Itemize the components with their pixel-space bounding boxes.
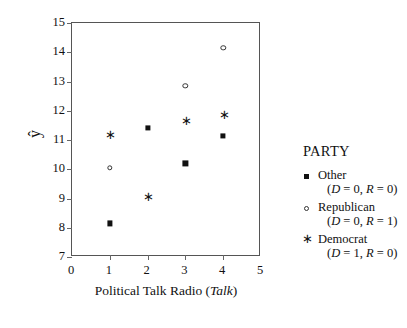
legend-items: Other(D = 0, R = 0)Republican(D = 0, R =… [303,169,407,260]
marker-filled-square [183,161,188,166]
y-tick [67,82,72,83]
y-tick-label: 13 [41,75,65,87]
legend-item-republican[interactable]: Republican(D = 0, R = 1) [303,201,407,228]
marker-filled-square [145,126,150,131]
legend-item-label: Democrat [318,233,407,246]
y-tick-label: 15 [41,16,65,28]
x-tick [148,255,149,260]
x-tick-label: 3 [172,264,196,276]
x-tick [223,255,224,260]
y-tick [67,140,72,141]
x-axis-label-tail: ) [233,283,238,298]
y-tick [67,169,72,170]
legend-item-label: Republican [318,201,407,214]
legend-item-democrat[interactable]: ∗Democrat(D = 1, R = 0) [303,233,407,260]
y-tick-label: 10 [41,162,65,174]
legend: PARTY Other(D = 0, R = 0)Republican(D = … [303,143,407,265]
x-axis-label-text: Political Talk Radio ( [95,283,210,298]
y-tick [67,228,72,229]
marker-open-circle [304,206,309,211]
x-axis-label-italic: Talk [210,283,233,298]
y-tick-label: 11 [41,133,65,145]
legend-item-other[interactable]: Other(D = 0, R = 0) [303,169,407,196]
marker-asterisk: ∗ [181,115,190,124]
x-axis-label: Political Talk Radio (Talk) [55,283,277,299]
legend-item-label: Other [318,169,407,182]
y-tick-label: 12 [41,104,65,116]
marker-filled-square [304,174,309,179]
y-tick-label: 9 [41,192,65,204]
plot-area: ∗∗∗∗ [71,22,260,256]
legend-item-condition: (D = 0, R = 0) [318,182,407,196]
x-tick-label: 0 [59,264,83,276]
y-tick-label: 8 [41,221,65,233]
legend-item-condition: (D = 0, R = 1) [318,214,407,228]
legend-title: PARTY [303,143,407,160]
x-tick-label: 1 [97,264,121,276]
y-tick [67,111,72,112]
marker-asterisk: ∗ [219,109,228,118]
x-tick-label: 5 [248,264,272,276]
marker-filled-square [221,133,226,138]
marker-asterisk: ∗ [105,130,114,139]
y-tick-label: 7 [41,250,65,262]
y-tick [67,199,72,200]
y-tick [67,52,72,53]
y-tick [67,23,72,24]
y-tick-label: 14 [41,45,65,57]
x-tick [185,255,186,260]
x-tick [110,255,111,260]
marker-open-circle [220,45,225,50]
marker-open-circle [107,165,112,170]
marker-filled-square [107,221,112,226]
y-tick [67,257,72,258]
x-tick-label: 2 [135,264,159,276]
marker-asterisk: ∗ [143,191,152,200]
x-tick-label: 4 [210,264,234,276]
chart-root: ∗∗∗∗ ŷ Political Talk Radio (Talk) PARTY… [0,0,407,328]
legend-item-condition: (D = 1, R = 0) [318,246,407,260]
marker-open-circle [183,83,188,88]
marker-asterisk: ∗ [302,234,311,243]
